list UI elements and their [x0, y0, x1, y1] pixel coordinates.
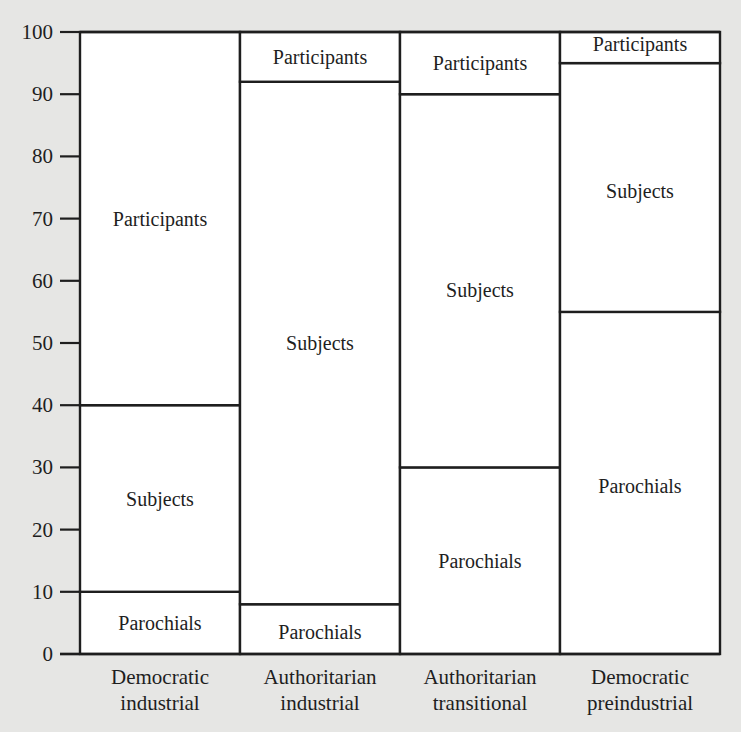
x-category-label: Authoritarian	[423, 665, 537, 689]
bar-0: ParochialsSubjectsParticipants	[80, 32, 240, 654]
y-tick-label: 100	[22, 20, 54, 44]
y-tick-label: 20	[32, 518, 53, 542]
segment-label: Parochials	[118, 612, 202, 634]
x-category-label: Democratic	[111, 665, 209, 689]
y-tick-label: 40	[32, 393, 53, 417]
x-axis-labels: DemocraticindustrialAuthoritarianindustr…	[111, 665, 693, 715]
segment-label: Participants	[433, 52, 528, 75]
bars: ParochialsSubjectsParticipantsParochials…	[60, 32, 720, 654]
segment-label: Subjects	[126, 488, 194, 511]
chart-canvas: 0102030405060708090100 ParochialsSubject…	[0, 0, 741, 732]
x-category-label: Democratic	[591, 665, 689, 689]
segment-label: Subjects	[446, 279, 514, 302]
y-tick-label: 30	[32, 455, 53, 479]
political-culture-stacked-bar-chart: 0102030405060708090100 ParochialsSubject…	[0, 0, 741, 732]
y-tick-label: 10	[32, 580, 53, 604]
x-category-label: transitional	[433, 691, 528, 715]
y-tick-label: 50	[32, 331, 53, 355]
y-tick-label: 60	[32, 269, 53, 293]
bar-1: ParochialsSubjectsParticipants	[240, 32, 400, 654]
x-category-label: preindustrial	[587, 691, 693, 715]
segment-label: Parochials	[278, 621, 362, 643]
y-tick-label: 70	[32, 207, 53, 231]
segment-label: Subjects	[286, 332, 354, 355]
segment-label: Parochials	[598, 475, 682, 497]
y-tick-label: 0	[43, 642, 54, 666]
segment-label: Participants	[273, 46, 368, 69]
y-tick-label: 90	[32, 82, 53, 106]
y-tick-label: 80	[32, 144, 53, 168]
x-category-label: Authoritarian	[263, 665, 377, 689]
bar-2: ParochialsSubjectsParticipants	[400, 32, 560, 654]
segment-label: Participants	[113, 208, 208, 231]
y-axis: 0102030405060708090100	[22, 20, 81, 666]
x-category-label: industrial	[280, 691, 359, 715]
segment-label: Subjects	[606, 180, 674, 203]
segment-label: Parochials	[438, 550, 522, 572]
x-category-label: industrial	[120, 691, 199, 715]
bar-3: ParochialsSubjectsParticipants	[560, 32, 720, 654]
segment-label: Participants	[593, 33, 688, 56]
